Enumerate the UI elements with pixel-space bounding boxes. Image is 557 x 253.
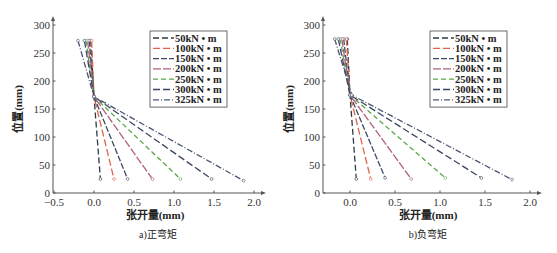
x-tick-label: 1.5 <box>207 196 221 208</box>
y-tick-label: 100 <box>304 131 321 143</box>
x-tick-label: 1.0 <box>167 196 181 208</box>
x-tick-label: 0.0 <box>87 196 101 208</box>
x-tick-label: −0.5 <box>44 196 64 208</box>
legend-label: 325kN • m <box>175 94 222 105</box>
y-tick-label: 300 <box>304 19 321 31</box>
x-tick-label: 0.5 <box>388 196 402 208</box>
data-point-marker <box>113 178 116 181</box>
y-tick-label: 200 <box>304 75 321 87</box>
y-tick-label: 250 <box>304 47 321 59</box>
y-axis-arrow-icon <box>51 16 55 21</box>
y-tick-label: 300 <box>34 19 51 31</box>
legend: 50kN • m100kN • m150kN • m200kN • m250kN… <box>430 31 507 107</box>
x-axis-arrow-icon <box>537 191 542 195</box>
legend: 50kN • m100kN • m150kN • m200kN • m250kN… <box>150 31 227 107</box>
x-axis-arrow-icon <box>261 191 266 195</box>
data-point-marker <box>444 176 447 179</box>
y-axis-arrow-icon <box>321 16 325 21</box>
data-point-marker <box>126 178 129 181</box>
data-point-marker <box>179 178 182 181</box>
x-tick-label: 1.0 <box>433 196 447 208</box>
chart-caption: b)负弯矩 <box>409 228 447 241</box>
x-tick-label: 1.5 <box>478 196 492 208</box>
data-point-marker <box>511 178 514 181</box>
data-point-marker <box>355 178 358 181</box>
x-axis-label: 张开量(mm) <box>126 208 185 222</box>
data-point-marker <box>99 178 102 181</box>
series-line <box>347 39 356 179</box>
data-point-marker <box>83 39 86 42</box>
data-point-marker <box>350 94 353 97</box>
y-tick-label: 150 <box>304 103 321 115</box>
data-point-marker <box>242 179 245 182</box>
x-tick-label: 2.0 <box>247 196 261 208</box>
data-point-marker <box>410 178 413 181</box>
y-tick-label: 250 <box>34 47 51 59</box>
chart-caption: a)正弯矩 <box>139 228 177 241</box>
data-point-marker <box>337 38 340 41</box>
x-tick-label: 0.5 <box>127 196 141 208</box>
data-point-marker <box>77 39 80 42</box>
data-point-marker <box>345 38 348 41</box>
chart-positive-moment: 050100150200250300−0.50.00.51.01.52.0张开量… <box>11 16 266 241</box>
series-line <box>344 39 385 178</box>
data-point-marker <box>369 178 372 181</box>
y-tick-label: 0 <box>315 187 321 199</box>
data-point-marker <box>333 38 336 41</box>
series-line <box>88 41 153 179</box>
x-tick-label: 2.0 <box>523 196 537 208</box>
x-tick-label: 0.0 <box>343 196 357 208</box>
legend-label: 325kN • m <box>455 94 502 105</box>
data-point-marker <box>151 178 154 181</box>
chart-canvas: 050100150200250300−0.50.00.51.01.52.0张开量… <box>0 0 557 253</box>
data-point-marker <box>384 176 387 179</box>
y-axis-label: 位置(mm) <box>282 85 296 133</box>
chart-negative-moment: 0501001502002503000.00.51.01.52.0张开量(mm)… <box>282 16 542 241</box>
data-point-marker <box>210 178 213 181</box>
series-line <box>346 39 370 179</box>
y-tick-label: 150 <box>34 103 51 115</box>
x-axis-label: 张开量(mm) <box>399 208 458 222</box>
y-axis-label: 位置(mm) <box>11 85 25 133</box>
data-point-marker <box>480 176 483 179</box>
y-tick-label: 200 <box>34 75 51 87</box>
y-tick-label: 50 <box>39 159 51 171</box>
data-point-marker <box>93 95 96 98</box>
y-tick-label: 50 <box>309 159 321 171</box>
y-tick-label: 100 <box>34 131 51 143</box>
